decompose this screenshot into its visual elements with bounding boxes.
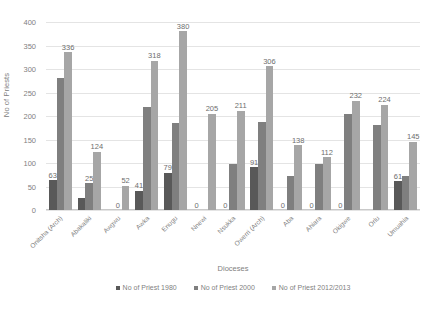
bar[interactable]: 138	[294, 145, 302, 210]
bar-value-label: 306	[263, 58, 276, 66]
bar-slot: 232	[352, 22, 360, 210]
bar-group: 0232Okigwe	[337, 22, 360, 210]
bar-slot: 0	[337, 22, 345, 210]
bar[interactable]: 145	[409, 142, 417, 210]
bar[interactable]: 318	[151, 61, 159, 210]
bar[interactable]	[373, 125, 381, 210]
bar-group: 63336Onitsha (Arch)	[49, 22, 72, 210]
bar[interactable]: 306	[266, 66, 274, 210]
legend-swatch-icon	[272, 286, 276, 290]
bar-slot: 112	[323, 22, 331, 210]
bar-slot: 91	[250, 22, 258, 210]
bar[interactable]	[287, 176, 295, 210]
bar-slot	[229, 22, 237, 210]
bar-slot: 0	[221, 22, 229, 210]
bar-slot: 52	[122, 22, 130, 210]
legend-item[interactable]: No of Priest 2012/2013	[272, 284, 351, 291]
bar-group: 052Awgwu	[106, 22, 129, 210]
bar-slot: 63	[49, 22, 57, 210]
bar-slot: 205	[208, 22, 216, 210]
bar[interactable]	[143, 107, 151, 210]
bar[interactable]: 61	[394, 181, 402, 210]
plot-area: 05010015020025030035040063336Onitsha (Ar…	[46, 22, 420, 210]
bar-group: 0112Ahiara	[308, 22, 331, 210]
bar[interactable]: 79	[164, 173, 172, 210]
bar[interactable]	[315, 164, 323, 210]
bar[interactable]	[172, 123, 180, 210]
x-axis-category-label-text: Okigwe	[331, 213, 353, 235]
bar-group-bars: 41318	[135, 22, 158, 210]
x-axis-title: Dioceses	[46, 264, 420, 273]
bar-slot	[106, 22, 114, 210]
bar-value-label: 336	[62, 44, 75, 52]
x-axis-category-label-text: Umuahia	[386, 213, 411, 238]
bar-value-label: 0	[223, 202, 227, 210]
bar-value-label: 224	[378, 96, 391, 104]
y-axis-tick-label: 250	[4, 89, 36, 97]
y-axis-tick-label: 100	[4, 160, 36, 168]
bar-value-label: 0	[194, 202, 198, 210]
x-axis-category-label-text: Awka	[134, 213, 152, 231]
bar-slot	[373, 22, 381, 210]
bar[interactable]	[229, 164, 237, 210]
bar-slot: 145	[409, 22, 417, 210]
bar-slot: 61	[394, 22, 402, 210]
bar-slot: 0	[308, 22, 316, 210]
bar-group: 0211Nsukka	[221, 22, 244, 210]
bar-slot: 138	[294, 22, 302, 210]
bar-group-bars: 0232	[337, 22, 360, 210]
bar-group-bars: 63336	[49, 22, 72, 210]
bar-group: 91306Owerri (Arch)	[250, 22, 273, 210]
bar-group: 79380Enugu	[164, 22, 187, 210]
bar-group-bars: 79380	[164, 22, 187, 210]
bar[interactable]: 91	[250, 167, 258, 210]
bar[interactable]: 63	[49, 180, 57, 210]
y-axis-tick-label: 50	[4, 183, 36, 191]
bar[interactable]: 224	[381, 105, 389, 210]
bar-slot	[200, 22, 208, 210]
x-axis-category-label-text: Onitsha (Arch)	[29, 213, 65, 249]
bar[interactable]	[344, 114, 352, 210]
x-axis-category-label-text: Ahiara	[304, 213, 324, 233]
bar-slot: 79	[164, 22, 172, 210]
bar-slot: 380	[179, 22, 187, 210]
gridline	[46, 210, 420, 211]
bar-value-label: 0	[310, 202, 314, 210]
bar[interactable]: 41	[135, 191, 143, 210]
bar-chart: No of Priests 05010015020025030035040063…	[0, 0, 428, 310]
bar-group: 61145Umuahia	[394, 22, 417, 210]
bar-value-label: 145	[407, 133, 420, 141]
bar-slot: 211	[237, 22, 245, 210]
bar-slot	[287, 22, 295, 210]
bar[interactable]: 336	[64, 52, 72, 210]
bar-value-label: 112	[321, 149, 333, 157]
bar-slot: 0	[279, 22, 287, 210]
bar[interactable]: 232	[352, 101, 360, 210]
bar-value-label: 0	[116, 202, 120, 210]
x-axis-category-label-text: Aba	[281, 213, 296, 228]
bar[interactable]: 205	[208, 114, 216, 210]
bar-slot	[315, 22, 323, 210]
bar-group-bars: 0205	[193, 22, 216, 210]
legend-item-label: No of Priest 2012/2013	[279, 284, 351, 291]
bar[interactable]	[402, 176, 410, 210]
legend-item[interactable]: No of Priest 2000	[194, 284, 255, 291]
bar-group-bars: 61145	[394, 22, 417, 210]
bar-slot: 336	[64, 22, 72, 210]
bar[interactable]: 25	[85, 183, 93, 210]
bar[interactable]: 380	[179, 31, 187, 210]
x-axis-category-label-text: Enugu	[161, 213, 181, 233]
bar-group-bars: 224	[365, 22, 388, 210]
bar-value-label: 0	[281, 202, 285, 210]
y-axis-tick-label: 150	[4, 136, 36, 144]
bar-group-bars: 0138	[279, 22, 302, 210]
bar-group-bars: 91306	[250, 22, 273, 210]
bar-group: 25124Abakaliki	[78, 22, 101, 210]
bar[interactable]	[258, 122, 266, 210]
legend-item[interactable]: No of Priest 1980	[116, 284, 177, 291]
bar[interactable]	[78, 198, 86, 210]
y-axis-tick-label: 0	[4, 207, 36, 215]
chart-legend: No of Priest 1980No of Priest 2000No of …	[46, 284, 420, 291]
bar[interactable]: 211	[237, 111, 245, 210]
bar[interactable]	[57, 78, 65, 210]
